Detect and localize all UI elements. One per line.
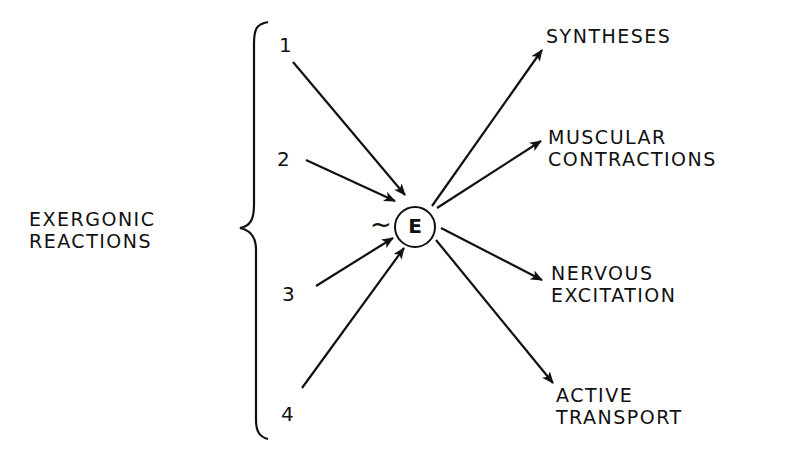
arrow-reaction-4 <box>302 248 404 388</box>
arrow-reaction-1 <box>293 62 405 195</box>
output-line-1: ACTIVE <box>556 384 683 406</box>
label-line-2: REACTIONS <box>29 230 156 252</box>
reaction-number-4: 4 <box>281 402 294 426</box>
output-muscular-contractions: MUSCULAR CONTRACTIONS <box>548 126 717 170</box>
arrow-muscular <box>437 141 541 208</box>
reaction-number-2: 2 <box>277 147 290 171</box>
arrow-active-transport <box>436 240 553 383</box>
output-line-1: NERVOUS <box>551 262 677 284</box>
output-syntheses: SYNTHESES <box>546 25 671 47</box>
reaction-number-3: 3 <box>282 282 295 306</box>
output-nervous-excitation: NERVOUS EXCITATION <box>551 262 677 306</box>
output-line-2: CONTRACTIONS <box>548 148 717 170</box>
output-line-1: MUSCULAR <box>548 126 717 148</box>
output-line-2: EXCITATION <box>551 284 677 306</box>
curly-brace <box>240 22 268 439</box>
exergonic-reactions-label: EXERGONIC REACTIONS <box>29 208 156 252</box>
output-line-1: SYNTHESES <box>546 25 671 47</box>
output-active-transport: ACTIVE TRANSPORT <box>556 384 683 428</box>
arrow-nervous <box>441 228 542 280</box>
arrow-syntheses <box>432 50 542 206</box>
label-line-1: EXERGONIC <box>29 208 156 230</box>
energy-label: E <box>395 214 435 238</box>
output-line-2: TRANSPORT <box>556 406 683 428</box>
tilde-symbol: ~ <box>370 209 392 239</box>
reaction-number-1: 1 <box>279 33 292 57</box>
